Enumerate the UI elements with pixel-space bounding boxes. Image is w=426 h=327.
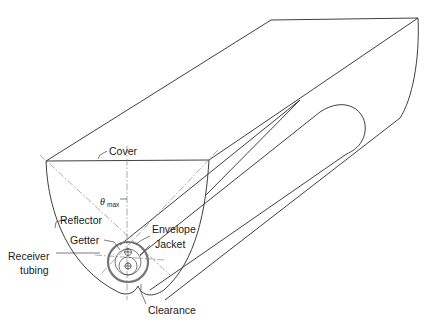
label-theta-max-subscript: max <box>107 201 120 208</box>
trough-edges <box>120 100 400 300</box>
label-envelope: Envelope <box>152 223 196 235</box>
back-end-reflector-edge <box>400 18 418 118</box>
label-receiver-line2: tubing <box>20 264 49 276</box>
label-cover: Cover <box>109 145 138 157</box>
label-clearance: Clearance <box>148 304 196 316</box>
label-theta-max: θ <box>100 196 105 207</box>
receiver-assembly <box>108 242 148 282</box>
label-jacket: Jacket <box>155 238 185 250</box>
cpc-collector-diagram: Cover θ max Reflector Getter Envelope Ja… <box>0 0 426 327</box>
label-getter: Getter <box>70 234 100 246</box>
label-reflector: Reflector <box>60 214 103 226</box>
label-receiver-line1: Receiver <box>8 250 50 262</box>
